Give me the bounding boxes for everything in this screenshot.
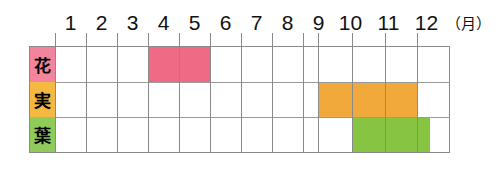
month-header-10: 10 — [334, 11, 367, 35]
column-line-12 — [417, 33, 418, 153]
column-line-0 — [55, 33, 56, 153]
row-label-flower: 花 — [30, 47, 55, 82]
column-line-11 — [385, 33, 386, 153]
month-unit-label: （月） — [446, 13, 491, 35]
column-line-4 — [179, 33, 180, 153]
month-header-8: 8 — [272, 11, 303, 35]
column-line-10 — [352, 33, 353, 153]
row-label-leaf: 葉 — [30, 117, 55, 152]
month-header-9: 9 — [303, 11, 334, 35]
row-separator-1 — [29, 82, 450, 83]
row-separator-2 — [29, 117, 450, 118]
month-header-6: 6 — [210, 11, 241, 35]
column-line-3 — [148, 33, 149, 153]
row-label-fruit: 実 — [30, 82, 55, 117]
month-header-2: 2 — [86, 11, 117, 35]
column-line-8 — [303, 33, 304, 153]
column-line-5 — [210, 33, 211, 153]
column-line-7 — [272, 33, 273, 153]
seasonal-calendar-chart: 1 2 3 4 5 6 7 8 9 10 11 12 （月） 花 実 葉 — [0, 0, 500, 169]
month-header-7: 7 — [241, 11, 272, 35]
column-line-2 — [117, 33, 118, 153]
month-header-1: 1 — [55, 11, 86, 35]
month-header-3: 3 — [117, 11, 148, 35]
bar-leaf — [352, 117, 430, 152]
month-header-5: 5 — [179, 11, 210, 35]
column-line-6 — [241, 33, 242, 153]
bar-fruit — [318, 82, 417, 117]
month-header-11: 11 — [372, 11, 405, 35]
month-header-4: 4 — [148, 11, 179, 35]
column-line-9 — [318, 33, 319, 153]
column-line-1 — [86, 33, 87, 153]
month-header-12: 12 — [410, 11, 443, 35]
